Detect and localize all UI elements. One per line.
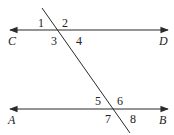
label-a: A	[7, 113, 16, 127]
transversal	[42, 8, 130, 133]
label-b: B	[159, 113, 167, 127]
angle-6: 6	[117, 94, 123, 108]
geometry-diagram: C D A B 1 2 3 4 5 6 7 8	[0, 0, 174, 135]
angle-4: 4	[76, 34, 82, 48]
angle-1: 1	[38, 16, 44, 30]
label-c: C	[8, 34, 17, 48]
label-d: D	[158, 34, 168, 48]
angle-3: 3	[51, 34, 57, 48]
angle-2: 2	[62, 16, 68, 30]
angle-5: 5	[95, 94, 101, 108]
angle-7: 7	[105, 112, 111, 126]
angle-8: 8	[130, 112, 136, 126]
